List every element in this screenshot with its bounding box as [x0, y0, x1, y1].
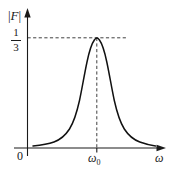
x-tick-label-omega-zero: ω0	[88, 152, 100, 167]
origin-label: 0	[17, 150, 23, 162]
y-tick-label-one-third: 1 3	[11, 27, 21, 53]
y-axis-label-variable: F	[11, 8, 19, 23]
fraction-denominator: 3	[12, 42, 20, 54]
y-axis-label: |F|	[8, 9, 21, 22]
plot-canvas	[0, 0, 171, 174]
y-axis-arrowhead-icon	[24, 8, 30, 18]
x-axis-label: ω	[155, 152, 163, 164]
y-axis-label-bar-right: |	[19, 8, 22, 23]
omega-zero-subscript: 0	[96, 158, 100, 167]
resonance-curve	[33, 38, 156, 146]
fraction-numerator: 1	[12, 27, 20, 39]
resonance-plot-figure: |F| 1 3 0 ω0 ω	[0, 0, 171, 174]
